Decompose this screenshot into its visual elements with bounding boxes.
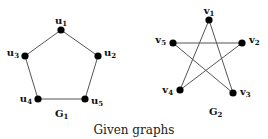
graph-label-g1-letter: G [55, 108, 64, 119]
vertex-v2 [238, 39, 245, 46]
graph-label-g2-sub: 2 [218, 110, 223, 119]
vertex-label-v5: v5 [154, 34, 166, 47]
graph-label-g1-sub: 1 [64, 112, 69, 121]
vertex-label-v4: v4 [161, 84, 173, 97]
graph-label-g2-letter: G [209, 106, 218, 117]
graph-label-g2: G2 [209, 106, 223, 119]
vertex-label-v3: v3 [239, 86, 251, 99]
edges-layer [25, 20, 242, 99]
vertex-label-u2: u2 [104, 47, 116, 60]
vertex-label-u1: u1 [55, 15, 67, 28]
edge-u3-u1 [25, 30, 61, 56]
vertex-u2 [94, 52, 101, 59]
vertex-v5 [169, 39, 176, 46]
vertex-v3 [229, 89, 236, 96]
edge-u1-u2 [61, 30, 98, 56]
edge-v1-v3 [209, 20, 233, 93]
vertex-label-u3: u3 [7, 47, 19, 60]
vertex-u5 [81, 95, 88, 102]
labels-layer: u1u2u3u4u5v1v2v3v4v5 [7, 5, 260, 108]
vertex-label-v2: v2 [248, 34, 260, 47]
graph-diagram: u1u2u3u4u5v1v2v3v4v5 G1 G2 Given graphs [0, 0, 268, 139]
vertex-label-u4: u4 [20, 93, 32, 106]
vertex-label-v1: v1 [203, 5, 215, 18]
vertex-u3 [21, 52, 28, 59]
vertex-v4 [176, 86, 183, 93]
graph-label-g1: G1 [55, 108, 69, 121]
edge-u2-u5 [85, 56, 98, 99]
vertex-label-u5: u5 [91, 95, 103, 108]
vertex-u4 [34, 95, 41, 102]
figure-caption: Given graphs [94, 123, 175, 137]
